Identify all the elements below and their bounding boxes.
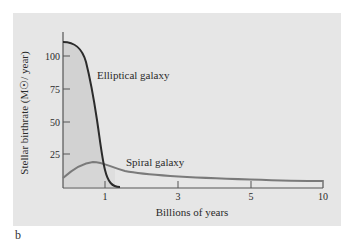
y-tick-labels: 100 75 50 25 <box>45 51 60 160</box>
x-axis-title: Billions of years <box>156 206 229 218</box>
x-ticks <box>105 181 251 188</box>
svg-text:100: 100 <box>45 51 60 62</box>
figure-label: b <box>15 228 21 241</box>
svg-text:50: 50 <box>50 117 60 128</box>
svg-text:5: 5 <box>249 191 254 202</box>
stellar-birthrate-chart: 100 75 50 25 1 3 5 10 Elliptical galaxy … <box>0 0 348 241</box>
svg-text:25: 25 <box>50 149 60 160</box>
svg-text:75: 75 <box>50 84 60 95</box>
y-axis-title: Stellar birthrate (M☉/ year) <box>18 51 31 175</box>
x-tick-labels: 1 3 5 10 <box>103 191 329 202</box>
svg-text:10: 10 <box>318 191 328 202</box>
svg-text:3: 3 <box>176 191 181 202</box>
svg-text:1: 1 <box>103 191 108 202</box>
elliptical-galaxy-label: Elliptical galaxy <box>97 69 170 81</box>
spiral-galaxy-label: Spiral galaxy <box>126 156 185 168</box>
